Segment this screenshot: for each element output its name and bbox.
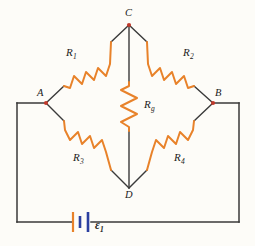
wire-c-to-r2 bbox=[129, 25, 147, 42]
resistor-label-r4: R4 bbox=[174, 152, 184, 163]
wire-a-to-r1 bbox=[46, 86, 64, 103]
resistor-label-r1: R1 bbox=[66, 47, 76, 58]
resistor-r3-symbol bbox=[64, 121, 111, 170]
resistor-label-r3-sub: 3 bbox=[80, 157, 84, 166]
resistor-label-r1-text: R bbox=[66, 46, 73, 58]
resistor-label-rg: Rg bbox=[144, 99, 154, 110]
battery-symbol bbox=[73, 212, 88, 232]
node-dot-a bbox=[44, 101, 48, 105]
wire-r4-to-b bbox=[194, 103, 213, 121]
resistor-rg-zigzag bbox=[121, 82, 137, 131]
emf-source-label-text: ε bbox=[95, 219, 100, 231]
resistor-label-r2: R2 bbox=[183, 47, 193, 58]
node-label-d: D bbox=[125, 190, 133, 201]
wire-d-to-r4 bbox=[129, 170, 147, 188]
node-dot-c bbox=[127, 23, 131, 27]
resistor-label-r2-text: R bbox=[183, 46, 190, 58]
emf-source-label-sub: 1 bbox=[100, 225, 104, 234]
outer-loop-wires bbox=[17, 103, 239, 222]
wire-r3-to-d bbox=[111, 170, 129, 188]
node-label-c: C bbox=[125, 8, 132, 19]
resistor-label-r2-sub: 2 bbox=[190, 52, 194, 61]
node-dot-b bbox=[211, 101, 215, 105]
resistor-label-rg-text: R bbox=[144, 98, 151, 110]
resistor-label-r3-text: R bbox=[73, 151, 80, 163]
resistor-r4-zigzag bbox=[147, 121, 194, 170]
resistor-label-r3: R3 bbox=[73, 152, 83, 163]
node-label-a: A bbox=[37, 88, 43, 99]
circuit-diagram-canvas: C A B D R1 R2 Rg R3 R4 ε1 bbox=[0, 0, 255, 246]
resistor-rg-symbol bbox=[121, 82, 137, 131]
node-label-b: B bbox=[215, 88, 221, 99]
wire-r2-to-b bbox=[194, 86, 213, 103]
resistor-label-r1-sub: 1 bbox=[73, 52, 77, 61]
resistor-label-r4-sub: 4 bbox=[181, 157, 185, 166]
wire-a-to-r3 bbox=[46, 103, 64, 121]
resistor-r4-symbol bbox=[147, 121, 194, 170]
resistor-label-r4-text: R bbox=[174, 151, 181, 163]
circuit-schematic bbox=[0, 0, 255, 246]
resistor-label-rg-sub: g bbox=[151, 104, 155, 113]
emf-source-label: ε1 bbox=[95, 220, 103, 232]
resistor-r3-zigzag bbox=[64, 121, 111, 170]
wire-r1-to-c bbox=[111, 25, 129, 42]
